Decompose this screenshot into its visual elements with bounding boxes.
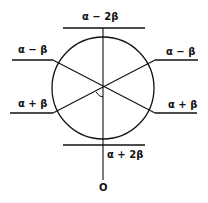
label-lower-right: α + β [168,99,197,110]
frost-circle-diagram: α − 2β α − β α − β α + β α + β α + 2β O [0,0,208,203]
origin-label: O [99,182,108,193]
label-bottom: α + 2β [107,149,143,160]
label-upper-left: α − β [18,44,47,55]
label-upper-right: α − β [166,46,195,57]
label-top: α − 2β [82,11,118,22]
angle-arc [96,92,103,97]
label-lower-left: α + β [18,98,47,109]
